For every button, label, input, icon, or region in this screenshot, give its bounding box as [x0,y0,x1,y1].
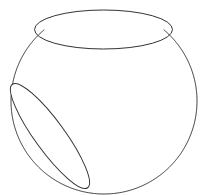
sphere-drawing [0,0,205,195]
top-opening-ellipse [35,10,173,49]
sphere-diagram [0,0,205,195]
sphere-outline [11,30,197,194]
